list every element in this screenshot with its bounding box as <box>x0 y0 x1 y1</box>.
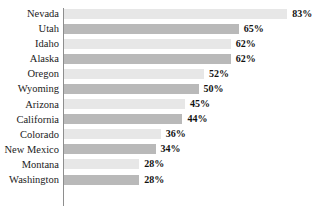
value-label: 50% <box>204 83 224 96</box>
bar-track <box>64 159 139 169</box>
value-label: 28% <box>144 158 164 171</box>
category-label: New Mexico <box>0 143 59 156</box>
bar-row: Wyoming50% <box>0 82 326 97</box>
bar-rows: Nevada83%Utah65%Idaho62%Alaska62%Oregon5… <box>0 7 326 188</box>
bar <box>64 24 239 34</box>
bar-row: Utah65% <box>0 22 326 37</box>
bar-track <box>64 54 231 64</box>
category-label: Colorado <box>0 128 59 141</box>
bar <box>64 69 204 79</box>
value-label: 36% <box>166 128 186 141</box>
category-label: Idaho <box>0 37 59 50</box>
bar-track <box>64 99 185 109</box>
bar-track <box>64 84 199 94</box>
value-label: 34% <box>161 143 181 156</box>
bar-row: Colorado36% <box>0 128 326 143</box>
bar <box>64 39 231 49</box>
bar <box>64 99 185 109</box>
category-label: Oregon <box>0 67 59 80</box>
plot-area: Nevada83%Utah65%Idaho62%Alaska62%Oregon5… <box>0 7 326 207</box>
bar <box>64 114 182 124</box>
bar-row: California44% <box>0 113 326 128</box>
bar-track <box>64 69 204 79</box>
bar-row: Montana28% <box>0 158 326 173</box>
bar-row: New Mexico34% <box>0 143 326 158</box>
bar-track <box>64 39 231 49</box>
bar-row: Arizona45% <box>0 98 326 113</box>
value-label: 62% <box>236 53 256 66</box>
value-label: 83% <box>292 8 312 21</box>
value-label: 65% <box>244 23 264 36</box>
bar-track <box>64 114 182 124</box>
category-label: Arizona <box>0 98 59 111</box>
bar <box>64 159 139 169</box>
bar <box>64 144 156 154</box>
category-label: Nevada <box>0 7 59 20</box>
value-label: 28% <box>144 174 164 187</box>
bar <box>64 175 139 185</box>
bar-track <box>64 175 139 185</box>
value-label: 45% <box>190 98 210 111</box>
bar-row: Alaska62% <box>0 52 326 67</box>
bar <box>64 129 161 139</box>
bar-track <box>64 129 161 139</box>
category-label: Utah <box>0 22 59 35</box>
bar-row: Washington28% <box>0 173 326 188</box>
bar <box>64 84 199 94</box>
value-label: 44% <box>187 113 207 126</box>
category-label: Wyoming <box>0 82 59 95</box>
bar-chart: Nevada83%Utah65%Idaho62%Alaska62%Oregon5… <box>0 0 326 214</box>
bar-row: Nevada83% <box>0 7 326 22</box>
bar-track <box>64 9 287 19</box>
bar-row: Idaho62% <box>0 37 326 52</box>
category-label: Alaska <box>0 52 59 65</box>
bar-track <box>64 24 239 34</box>
category-label: Montana <box>0 158 59 171</box>
category-label: Washington <box>0 173 59 186</box>
value-label: 62% <box>236 38 256 51</box>
value-label: 52% <box>209 68 229 81</box>
category-label: California <box>0 113 59 126</box>
bar <box>64 54 231 64</box>
bar-track <box>64 144 156 154</box>
bar-row: Oregon52% <box>0 67 326 82</box>
bar <box>64 9 287 19</box>
